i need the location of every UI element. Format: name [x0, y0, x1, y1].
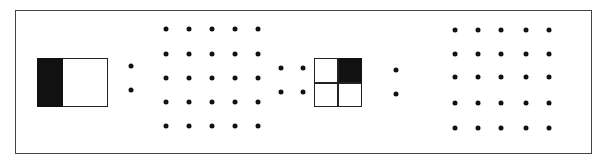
square-divider-horizontal	[314, 82, 362, 84]
dot	[256, 100, 261, 105]
dot	[547, 126, 552, 131]
dot	[547, 52, 552, 57]
dot	[164, 52, 169, 57]
shaded-quarter	[338, 58, 362, 83]
dot	[476, 101, 481, 106]
dot	[187, 100, 192, 105]
dot	[453, 101, 458, 106]
dot	[499, 126, 504, 131]
dot	[547, 28, 552, 33]
dot	[476, 75, 481, 80]
dot	[187, 76, 192, 81]
dot	[524, 126, 529, 131]
dot	[301, 90, 306, 95]
dot	[524, 28, 529, 33]
dot	[256, 52, 261, 57]
dot	[453, 75, 458, 80]
dot	[233, 124, 238, 129]
dot	[301, 66, 306, 71]
dot	[279, 90, 284, 95]
dot	[476, 126, 481, 131]
dot	[524, 52, 529, 57]
dot	[164, 124, 169, 129]
dot	[476, 28, 481, 33]
dot	[187, 124, 192, 129]
dot	[233, 100, 238, 105]
dot	[210, 52, 215, 57]
dot	[210, 124, 215, 129]
dot	[210, 100, 215, 105]
dot	[547, 101, 552, 106]
dot	[394, 92, 399, 97]
dot	[233, 52, 238, 57]
dot	[187, 27, 192, 32]
dot	[256, 27, 261, 32]
dot	[394, 68, 399, 73]
dot	[233, 27, 238, 32]
dot	[210, 27, 215, 32]
dot	[476, 52, 481, 57]
dot	[164, 27, 169, 32]
dot	[524, 75, 529, 80]
dot	[547, 75, 552, 80]
dot	[499, 101, 504, 106]
dot	[453, 52, 458, 57]
dot	[129, 88, 134, 93]
shaded-half	[37, 58, 63, 107]
dot	[453, 126, 458, 131]
dot	[499, 75, 504, 80]
dot	[210, 76, 215, 81]
dot	[187, 52, 192, 57]
dot	[256, 124, 261, 129]
dot	[164, 76, 169, 81]
dot	[129, 64, 134, 69]
dot	[233, 76, 238, 81]
dot	[164, 100, 169, 105]
dot	[524, 101, 529, 106]
dot	[453, 28, 458, 33]
dot	[499, 52, 504, 57]
dot	[256, 76, 261, 81]
dot	[279, 66, 284, 71]
dot	[499, 28, 504, 33]
